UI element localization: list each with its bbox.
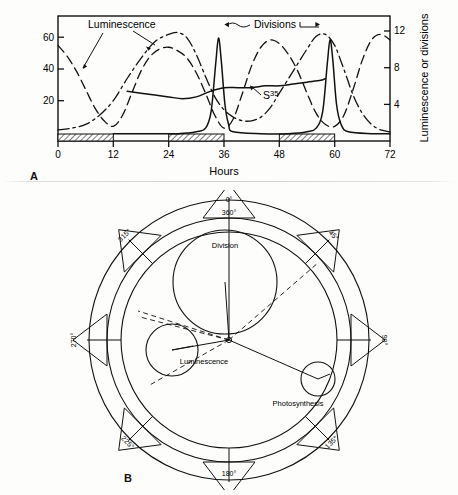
panel-a-chart: 60 40 20 12 8 4 0 12 24 36 48 60 [0,0,458,180]
x-tick-label: 12 [108,149,120,160]
degree-label-180: 180° [222,470,237,477]
radius-photosynthesis [229,340,318,379]
x-tick-label: 60 [329,149,341,160]
series-s35 [127,79,325,99]
degree-label-90: 90° [381,335,388,346]
dark-period-bar [58,134,113,141]
degree-label-0: 0° [226,196,233,203]
degree-spoke-225 [129,416,153,440]
radius-division [225,282,229,340]
series-luminescence [58,34,390,128]
y-tick-label-left: 60 [43,32,55,43]
degree-label-270: 270° [70,333,77,348]
x-tick-label: 72 [384,149,396,160]
x-tick-label: 24 [163,149,175,160]
x-axis-title: Hours [209,165,239,177]
series-photosynthesis [58,32,390,131]
leader-divisions-left [227,23,250,27]
arrowhead [224,22,229,27]
x-axis: 0 12 24 36 48 60 72 [55,141,396,160]
panel-b-letter: B [124,472,132,484]
dark-period-bars [58,134,335,141]
leader-luminescence-right [133,31,155,45]
y-tick-label-left: 40 [43,63,55,74]
dashed-luminescence-edge-b [140,317,229,340]
dashed-division-edge [229,262,319,340]
divisions-annotation: Divisions [254,18,296,30]
luminescence-annotation: Luminescence [88,18,156,30]
tick-luminescence [172,346,193,350]
x-tick-label: 48 [274,149,286,160]
degree-label-360: 360° [222,209,237,216]
y-tick-label-right: 8 [394,62,400,73]
data-curves [58,32,390,134]
panel-divider [0,181,458,182]
degree-spoke-45 [305,240,329,264]
s35-annotation: S35 [263,89,278,102]
dark-period-bar [279,134,334,141]
x-tick-label: 0 [55,149,61,160]
y-tick-label-right: 12 [394,25,406,36]
dark-period-bar [169,134,224,141]
degree-label-225: 225° [120,435,135,450]
panel-b-diagram: Division Luminescence Photosynthesis 0° … [0,190,458,490]
division-label: Division [212,241,238,250]
y-axis-left: 60 40 20 [43,32,64,107]
photosynthesis-label: Photosynthesis [273,399,324,408]
leader-luminescence-left [83,33,103,68]
degree-spoke-135 [305,416,329,440]
y-tick-label-left: 20 [43,95,55,106]
x-tick-label: 36 [218,149,230,160]
degree-spoke-315 [129,240,153,264]
luminescence-label: Luminescence [180,357,228,366]
y-axis-title-right: Luminescence or divisions [418,13,430,143]
panel-a-letter: A [30,170,38,182]
tick-photosynthesis [318,374,330,379]
figure-container: 60 40 20 12 8 4 0 12 24 36 48 60 [0,0,458,495]
dashed-luminescence-edge-a [138,311,229,340]
y-tick-label-right: 4 [394,99,400,110]
arrowhead [315,22,320,27]
